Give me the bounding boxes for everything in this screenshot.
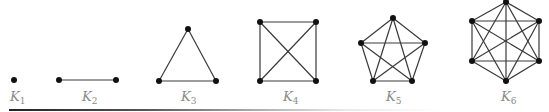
label-k3: K3 (180, 89, 197, 106)
vertex-k3-2 (156, 78, 162, 84)
vertex-k4-3 (257, 78, 263, 84)
vertex-k6-0 (503, 0, 509, 5)
graph-k6 (469, 0, 542, 84)
graph-k4 (257, 19, 319, 84)
vertex-k5-3 (370, 78, 376, 84)
vertex-k1-0 (11, 77, 17, 83)
vertex-k4-1 (313, 19, 319, 25)
edge-k5-0-2 (393, 18, 412, 81)
label-k6: K6 (500, 89, 517, 106)
edge-k5-1-2 (412, 43, 425, 81)
vertex-k5-4 (358, 40, 364, 46)
vertex-k5-2 (409, 78, 415, 84)
edge-k5-1-3 (373, 43, 425, 81)
graph-k5 (358, 15, 428, 84)
vertex-k6-1 (536, 18, 542, 24)
vertex-k6-3 (503, 78, 509, 84)
edge-k5-0-3 (373, 18, 393, 81)
vertex-k6-5 (469, 18, 475, 24)
vertex-k3-0 (185, 26, 191, 32)
edge-k3-0-2 (159, 29, 188, 81)
complete-graphs-diagram: K1 K2 K3 K4 K5 K6 (0, 0, 549, 112)
vertex-k5-0 (390, 15, 396, 21)
vertex-k6-4 (469, 58, 475, 64)
graph-k1 (11, 77, 17, 83)
label-k5: K5 (385, 89, 402, 106)
edge-k5-0-4 (361, 18, 393, 43)
graph-k2 (56, 77, 119, 83)
vertex-k2-1 (113, 77, 119, 83)
vertex-k4-2 (313, 78, 319, 84)
edge-k5-2-4 (361, 43, 412, 81)
edge-k3-0-1 (188, 29, 216, 81)
label-k4: K4 (282, 89, 299, 106)
edge-k5-0-1 (393, 18, 425, 43)
bottom-rule-divider (9, 109, 549, 111)
label-k1: K1 (9, 89, 25, 106)
edge-k5-3-4 (361, 43, 373, 81)
vertex-k2-0 (56, 77, 62, 83)
vertex-k6-2 (536, 58, 542, 64)
label-k2: K2 (81, 89, 97, 106)
vertex-k5-1 (422, 40, 428, 46)
vertex-k4-0 (257, 19, 263, 25)
graph-k3 (156, 26, 219, 84)
vertex-k3-1 (213, 78, 219, 84)
